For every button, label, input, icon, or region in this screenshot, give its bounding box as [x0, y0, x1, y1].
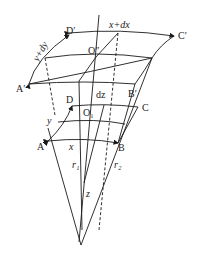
label-A: A: [37, 141, 45, 152]
label-y: y: [46, 115, 52, 126]
top-bottom-edge: [29, 82, 135, 84]
left-dashed: [45, 58, 55, 115]
label-x-plus-dx: x+dx: [108, 19, 130, 30]
label-z: z: [85, 188, 90, 199]
label-D-prime: D′: [66, 25, 75, 36]
label-C: C: [142, 102, 149, 113]
label-O-double-prime: O″: [88, 45, 99, 56]
bottom-surface-mid-edge: [58, 120, 125, 124]
label-x: x: [68, 141, 74, 152]
top-surface-front-edge: [29, 58, 152, 84]
top-right-edge: [152, 36, 174, 58]
label-dz: dz: [96, 89, 106, 100]
label-B: B: [118, 142, 125, 153]
label-D: D: [66, 94, 73, 105]
label-y-plus-dy: y+dy: [30, 39, 51, 64]
label-C-prime: C′: [178, 30, 187, 41]
inner-prism-top-left: [79, 33, 118, 81]
bottom-surface-right-edge: [118, 107, 138, 143]
label-r1: r₁: [72, 159, 79, 170]
label-r2: r₂: [114, 159, 122, 170]
inner-prism-left: [79, 81, 82, 230]
ray-r1: [48, 128, 81, 245]
label-O1: O₁: [83, 107, 94, 118]
label-A-prime: A′: [16, 83, 25, 94]
label-B-prime: B′: [128, 88, 137, 99]
x-plus-dx-arrow: [69, 31, 174, 36]
inner-prism-dashed: [99, 33, 118, 230]
diagram-canvas: D′ x+dx C′ y+dy O″ A′ dz B′ D C O₁ y A x…: [0, 0, 201, 256]
y-arrow: [48, 106, 72, 141]
